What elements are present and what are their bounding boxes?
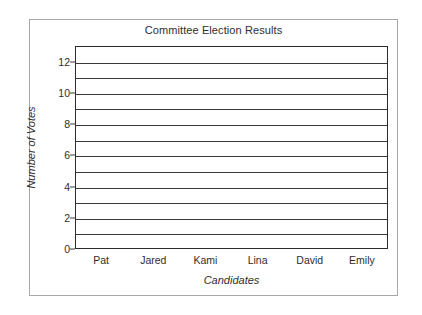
gridline (76, 125, 387, 126)
y-axis-title: Number of Votes (25, 46, 41, 249)
x-axis-tick-label: Emily (336, 254, 388, 270)
y-axis-tick-label: 10 (44, 87, 70, 99)
gridline (76, 109, 387, 110)
y-axis-tick-label: 8 (44, 118, 70, 130)
gridline (76, 94, 387, 95)
gridline (76, 234, 387, 235)
gridline (76, 63, 387, 64)
gridline (76, 172, 387, 173)
gridline (76, 156, 387, 157)
y-axis-tick-labels: 024681012 (40, 46, 70, 249)
y-axis-tick-label: 2 (44, 212, 70, 224)
x-axis-tick-label: Kami (179, 254, 231, 270)
y-axis-tick-label: 4 (44, 181, 70, 193)
x-axis-tick-label: David (284, 254, 336, 270)
x-axis-tick-label: Lina (232, 254, 284, 270)
x-axis-tick-label: Pat (75, 254, 127, 270)
x-axis-tick-label: Jared (127, 254, 179, 270)
gridline (76, 219, 387, 220)
chart-title: Committee Election Results (29, 24, 398, 36)
gridline (76, 188, 387, 189)
gridline (76, 203, 387, 204)
x-axis-tick-labels: PatJaredKamiLinaDavidEmily (75, 254, 388, 270)
y-axis-tick-label: 0 (44, 243, 70, 255)
chart-figure: Committee Election Results Number of Vot… (0, 0, 422, 315)
x-axis-title: Candidates (75, 274, 388, 286)
y-axis-tick-label: 12 (44, 56, 70, 68)
y-axis-tick-label: 6 (44, 149, 70, 161)
gridline (76, 78, 387, 79)
gridline (76, 141, 387, 142)
plot-area (75, 46, 388, 249)
